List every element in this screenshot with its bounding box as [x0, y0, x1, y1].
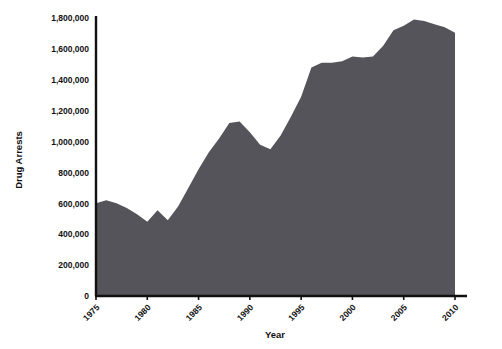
x-tick-label-2005: 2005 — [389, 302, 410, 323]
y-tick-label-800000: 800,000 — [58, 168, 89, 178]
y-tick-label-1000000: 1,000,000 — [51, 137, 89, 147]
x-tick-label-2010: 2010 — [440, 302, 461, 323]
y-tick-label-200000: 200,000 — [58, 260, 89, 270]
x-tick-label-2000: 2000 — [337, 302, 358, 323]
y-tick-label-0: 0 — [84, 291, 89, 301]
x-tick-label-1990: 1990 — [235, 302, 256, 323]
plot-area — [96, 20, 455, 296]
drug-arrests-area-series — [96, 20, 455, 296]
x-tick-label-1980: 1980 — [132, 302, 153, 323]
y-tick-label-400000: 400,000 — [58, 229, 89, 239]
drug-arrests-area-chart: 0200,000400,000600,000800,0001,000,0001,… — [0, 0, 502, 349]
y-tick-label-1400000: 1,400,000 — [51, 75, 89, 85]
y-tick-label-1800000: 1,800,000 — [51, 13, 89, 23]
x-axis-tick-labels: 19751980198519901995200020052010 — [81, 296, 461, 323]
x-tick-label-1985: 1985 — [184, 302, 205, 323]
chart-canvas: 0200,000400,000600,000800,0001,000,0001,… — [0, 0, 502, 349]
y-axis-title: Drug Arrests — [13, 131, 24, 189]
y-tick-label-1600000: 1,600,000 — [51, 44, 89, 54]
x-tick-label-1975: 1975 — [81, 302, 102, 323]
x-axis-title: Year — [265, 329, 285, 340]
y-tick-label-600000: 600,000 — [58, 199, 89, 209]
y-axis-tick-labels: 0200,000400,000600,000800,0001,000,0001,… — [51, 13, 89, 301]
x-tick-label-1995: 1995 — [286, 302, 307, 323]
y-tick-label-1200000: 1,200,000 — [51, 106, 89, 116]
